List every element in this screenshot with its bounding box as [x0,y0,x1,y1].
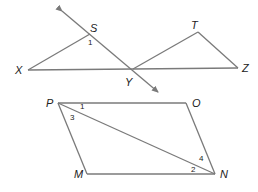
angle-label-3: 3 [70,113,75,122]
label-S: S [90,22,98,34]
label-Y: Y [125,76,133,88]
angle-label-1: 1 [80,102,85,111]
figure-parallelogram: P O N M 1 3 4 2 [46,97,228,180]
segment-YT [133,32,198,69]
label-M: M [74,168,84,180]
angle-label-2: 2 [191,165,196,174]
diagonal-PN [58,103,215,174]
angle-label-4: 4 [199,154,204,163]
label-N: N [220,168,228,180]
segment-XS [28,34,90,70]
label-T: T [191,19,199,31]
figure-triangles: S T X Y Z 1 [14,11,250,92]
angle-label-1-top: 1 [88,38,93,47]
transversal-line-SY [62,11,158,92]
label-O: O [192,97,201,109]
geometry-diagram: S T X Y Z 1 P O N M 1 3 4 2 [0,0,258,192]
segment-TZ [198,32,238,68]
label-Z: Z [241,62,250,74]
label-X: X [14,64,23,76]
label-P: P [46,97,54,109]
